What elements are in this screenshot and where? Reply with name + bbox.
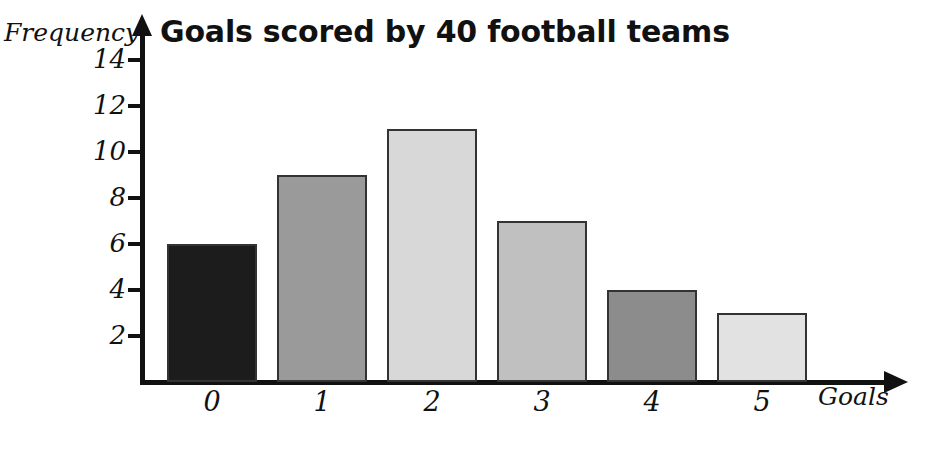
y-axis-tick-label: 4 xyxy=(56,274,126,304)
chart-figure: Goals scored by 40 football teams Freque… xyxy=(0,0,925,450)
y-axis-tick xyxy=(128,196,142,200)
bar xyxy=(387,129,477,382)
bar xyxy=(167,244,257,382)
bar xyxy=(497,221,587,382)
y-axis-tick-label: 2 xyxy=(56,320,126,350)
bar xyxy=(717,313,807,382)
x-axis-tick-label: 1 xyxy=(277,386,367,417)
x-axis-tick-label: 2 xyxy=(387,386,477,417)
y-axis-tick-label: 10 xyxy=(56,136,126,166)
y-axis-tick-label: 8 xyxy=(56,182,126,212)
chart-title: Goals scored by 40 football teams xyxy=(160,14,730,49)
x-axis-tick-label: 5 xyxy=(717,386,807,417)
y-axis-tick xyxy=(128,334,142,338)
y-axis-tick xyxy=(128,104,142,108)
y-axis-line xyxy=(140,32,145,385)
y-axis-title: Frequency xyxy=(4,18,139,47)
y-axis-tick xyxy=(128,150,142,154)
y-axis-tick xyxy=(128,58,142,62)
bar xyxy=(277,175,367,382)
bar xyxy=(607,290,697,382)
y-axis-tick-label: 12 xyxy=(56,90,126,120)
x-axis-arrow-icon xyxy=(884,371,908,393)
y-axis-tick xyxy=(128,242,142,246)
x-axis-tick-label: 4 xyxy=(607,386,697,417)
x-axis-title: Goals xyxy=(818,382,889,411)
y-axis-tick-label: 14 xyxy=(56,44,126,74)
y-axis-tick-label: 6 xyxy=(56,228,126,258)
y-axis-arrow-icon xyxy=(132,14,152,36)
y-axis-tick xyxy=(128,288,142,292)
x-axis-tick-label: 0 xyxy=(167,386,257,417)
x-axis-tick-label: 3 xyxy=(497,386,587,417)
